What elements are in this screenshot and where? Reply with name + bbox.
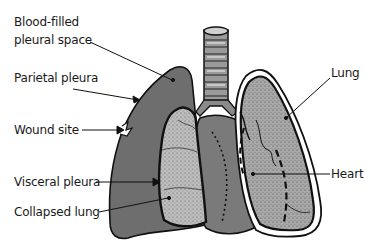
trachea <box>204 27 228 102</box>
label-parietal-pleura: Parietal pleura <box>14 71 98 85</box>
label-visceral-pleura: Visceral pleura <box>14 175 100 189</box>
label-lung: Lung <box>331 66 360 80</box>
bronchi <box>196 100 238 116</box>
label-heart: Heart <box>331 167 363 181</box>
label-blood-filled-line2: pleural space <box>14 33 92 47</box>
parietal-pleura-leader <box>73 89 138 100</box>
label-collapsed-lung: Collapsed lung <box>14 205 100 219</box>
lung-leader <box>286 78 330 118</box>
label-blood-filled-line1: Blood-filled <box>14 15 79 29</box>
label-wound-site: Wound site <box>14 123 79 137</box>
blood-space-leader <box>90 42 172 80</box>
